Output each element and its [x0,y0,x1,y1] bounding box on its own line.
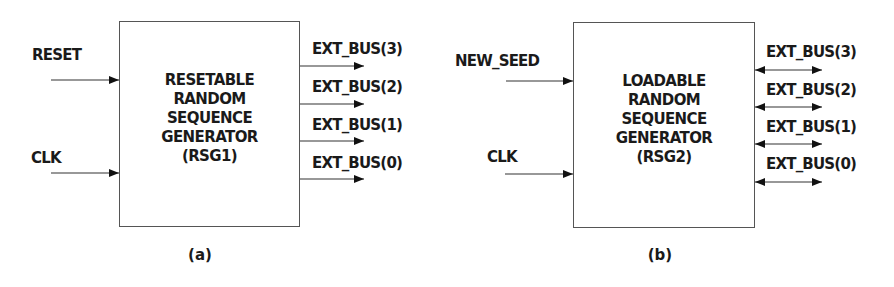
caption-b: (b) [640,246,680,264]
ext-bus-3-label-b: EXT_BUS(3) [766,44,856,60]
rsg2-block-label: LOADABLE RANDOM SEQUENCE GENERATOR (RSG2… [574,72,754,167]
ext-bus-0-label-b: EXT_BUS(0) [766,156,856,172]
rsg1-block-label: RESETABLE RANDOM SEQUENCE GENERATOR (RSG… [120,71,299,166]
rsg1-block: RESETABLE RANDOM SEQUENCE GENERATOR (RSG… [119,21,300,227]
block-label-line: GENERATOR [574,129,754,148]
block-label-line: SEQUENCE [120,109,299,128]
clk-label-a: CLK [31,150,61,166]
block-label-line: LOADABLE [574,72,754,91]
ext-bus-1-label-a: EXT_BUS(1) [312,117,402,133]
block-label-line: RANDOM [574,91,754,110]
ext-bus-3-label-a: EXT_BUS(3) [312,41,402,57]
ext-bus-0-label-a: EXT_BUS(0) [312,155,402,171]
block-label-line: (RSG1) [120,147,299,166]
block-label-line: SEQUENCE [574,110,754,129]
clk-label-b: CLK [487,149,517,165]
block-label-line: GENERATOR [120,128,299,147]
reset-label: RESET [32,47,81,63]
ext-bus-1-label-b: EXT_BUS(1) [766,119,856,135]
block-label-line: (RSG2) [574,148,754,167]
block-label-line: RANDOM [120,90,299,109]
block-label-line: RESETABLE [120,71,299,90]
ext-bus-2-label-b: EXT_BUS(2) [766,82,856,98]
rsg2-block: LOADABLE RANDOM SEQUENCE GENERATOR (RSG2… [573,22,755,228]
ext-bus-2-label-a: EXT_BUS(2) [312,79,402,95]
new-seed-label: NEW_SEED [455,53,539,69]
caption-a: (a) [180,246,220,264]
